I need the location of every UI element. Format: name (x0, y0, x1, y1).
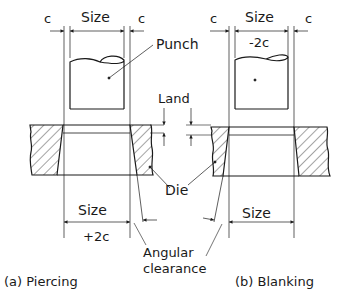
label-minus-2c: -2c (249, 36, 269, 49)
blanking-view (186, 26, 330, 256)
label-size-b-bottom: Size (242, 206, 271, 220)
caption-blanking: (b) Blanking (235, 275, 314, 288)
label-size-b-top: Size (245, 10, 274, 24)
label-c-right-b: c (305, 12, 312, 25)
label-land: Land (158, 92, 190, 105)
die-a-left (30, 125, 63, 175)
caption-piercing: (a) Piercing (4, 275, 78, 288)
label-punch: Punch (156, 37, 199, 51)
label-size-a-top: Size (81, 10, 110, 24)
punch-a (70, 56, 124, 109)
label-c-left-a: c (44, 12, 51, 25)
label-c-right-a: c (138, 12, 145, 25)
die-b-right (294, 127, 330, 176)
label-size-a-bottom: Size (78, 203, 107, 217)
punch-b (235, 55, 288, 109)
label-c-left-b: c (210, 12, 217, 25)
label-clearance: clearance (143, 262, 206, 275)
label-angular: Angular (143, 246, 194, 259)
die-b-left (211, 127, 229, 176)
label-die: Die (165, 183, 188, 197)
label-plus-2c: +2c (83, 230, 109, 243)
